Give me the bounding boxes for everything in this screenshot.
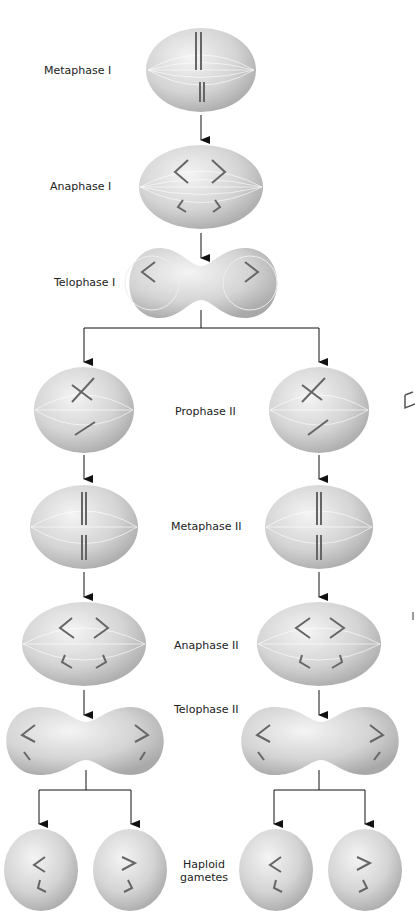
label-telophase-2: Telophase II <box>174 703 239 716</box>
cell-metaphase-2-left <box>30 485 138 569</box>
cell-metaphase-2-right <box>265 485 373 569</box>
gamete-2 <box>93 829 167 911</box>
cell-metaphase-1 <box>146 28 256 112</box>
label-gametes-line1: Haploid <box>180 858 228 871</box>
cell-anaphase-2-right <box>257 602 381 686</box>
cell-telophase-2-left <box>6 707 164 775</box>
edge-artifact-icon <box>405 392 415 408</box>
meiosis-diagram <box>0 0 415 924</box>
cell-prophase-2-left <box>34 367 134 453</box>
gamete-3 <box>239 829 313 911</box>
cell-anaphase-1 <box>139 145 263 229</box>
branch-connector <box>84 310 319 362</box>
label-anaphase-1: Anaphase I <box>50 180 111 193</box>
gamete-4 <box>328 829 402 911</box>
cell-prophase-2-right <box>269 367 369 453</box>
label-metaphase-2: Metaphase II <box>171 520 242 533</box>
cell-telophase-1 <box>125 248 277 318</box>
label-metaphase-1: Metaphase I <box>44 64 111 77</box>
cell-telophase-2-right <box>241 707 399 775</box>
label-anaphase-2: Anaphase II <box>174 639 238 652</box>
label-prophase-2: Prophase II <box>175 405 236 418</box>
gamete-1 <box>4 829 78 911</box>
label-gametes-line2: gametes <box>180 871 228 884</box>
label-haploid-gametes: Haploid gametes <box>180 858 228 884</box>
branch-connector <box>39 770 365 824</box>
cell-anaphase-2-left <box>22 602 146 686</box>
label-telophase-1: Telophase I <box>54 276 115 289</box>
